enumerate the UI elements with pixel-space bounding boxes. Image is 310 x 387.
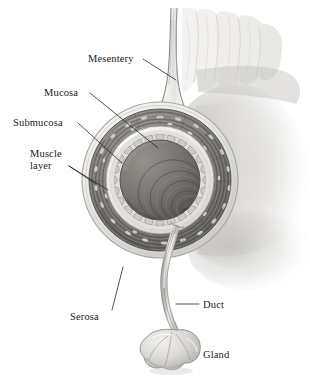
label-muscle-layer-line2: layer xyxy=(30,160,52,171)
cross-section-illustration: Mesentery Mucosa Submucosa Muscle layer … xyxy=(0,0,310,387)
gland-structure xyxy=(140,329,200,375)
label-gland: Gland xyxy=(203,349,230,360)
mesentery-structure xyxy=(160,8,300,106)
label-mesentery: Mesentery xyxy=(88,53,134,64)
label-mucosa: Mucosa xyxy=(44,87,78,98)
mesentery-fat-fringe xyxy=(182,8,300,104)
label-serosa: Serosa xyxy=(70,311,99,322)
label-duct: Duct xyxy=(203,299,224,310)
anatomical-figure: Mesentery Mucosa Submucosa Muscle layer … xyxy=(0,0,310,387)
leader-serosa xyxy=(112,267,123,310)
label-submucosa: Submucosa xyxy=(13,117,63,128)
label-muscle-layer-line1: Muscle xyxy=(30,148,62,159)
